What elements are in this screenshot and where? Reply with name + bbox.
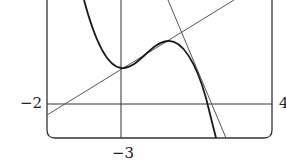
plot-area <box>0 0 286 164</box>
label-left: −2 <box>20 96 42 111</box>
plot-frame <box>47 0 272 138</box>
cubic-curve <box>84 0 216 138</box>
steep-line <box>168 0 226 138</box>
label-bottom: −3 <box>112 146 134 161</box>
label-right: 4 <box>279 96 286 111</box>
